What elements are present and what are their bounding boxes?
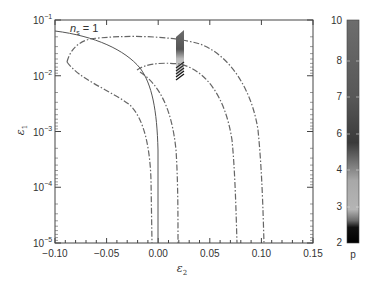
colorbar-tick-label: 3 [336,201,342,212]
series-contour-outer [67,36,264,243]
colorbar-tick-label: 7 [336,91,342,102]
series-contour-inner-right [140,72,178,243]
series-ns1-line [55,31,158,243]
x-axis-label: ε2 [177,262,187,277]
y-tick-label: 10−2 [33,69,52,82]
x-tick-labels: −0.10 −0.05 0.00 0.05 0.10 0.15 [42,248,323,259]
colorbar-label: p [350,249,356,260]
colorbar-tick-label: 2 [336,237,342,248]
colorbar-tick-label: 6 [336,128,342,139]
x-tick-label: −0.10 [42,248,68,259]
y-tick-label: 10−3 [33,125,52,138]
y-axis-label: ε1 [14,125,29,135]
colorbar-tick-label: 8 [336,55,342,66]
x-tick-label: 0.00 [148,248,168,259]
y-tick-label: 10−4 [33,180,52,193]
x-tick-label: 0.10 [252,248,272,259]
x-tick-label: 0.15 [303,248,323,259]
chart: −0.10 −0.05 0.00 0.05 0.10 0.15 10−1 10−… [0,0,371,287]
x-tick-label: −0.05 [94,248,120,259]
y-tick-labels: 10−1 10−2 10−3 10−4 10−5 [33,13,52,249]
shaded-region [176,30,184,80]
colorbar-tick-label: 10 [331,15,343,26]
y-tick-label: 10−1 [33,13,52,26]
colorbar [347,20,359,243]
series-contour-inner-left [67,62,152,243]
colorbar-tick-label: 4 [336,164,342,175]
x-tick-label: 0.05 [200,248,220,259]
